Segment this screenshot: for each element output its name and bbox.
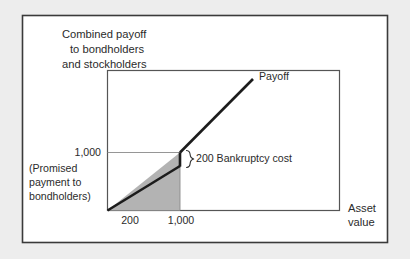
y-axis-caption-line-2: payment to [29, 176, 82, 188]
figure-title-line-1: Combined payoff [62, 28, 147, 40]
payoff-series-label: Payoff [259, 70, 289, 82]
x-axis-tick-200: 200 [121, 214, 139, 226]
y-axis-tick-1000: 1,000 [74, 146, 101, 158]
y-axis-caption-line-1: (Promised [29, 162, 77, 174]
figure-container: Combined payoff to bondholders and stock… [0, 0, 410, 259]
figure-title-line-2: to bondholders [70, 43, 144, 55]
x-axis-tick-1000: 1,000 [168, 214, 195, 226]
bankruptcy-cost-note: 200 Bankruptcy cost [196, 152, 292, 164]
y-axis-caption-line-3: bondholders) [29, 190, 91, 202]
payoff-diagram: Combined payoff to bondholders and stock… [0, 0, 410, 259]
figure-title-line-3: and stockholders [62, 58, 147, 70]
x-axis-title-line-1: Asset [348, 202, 377, 214]
x-axis-title-line-2: value [348, 216, 375, 228]
